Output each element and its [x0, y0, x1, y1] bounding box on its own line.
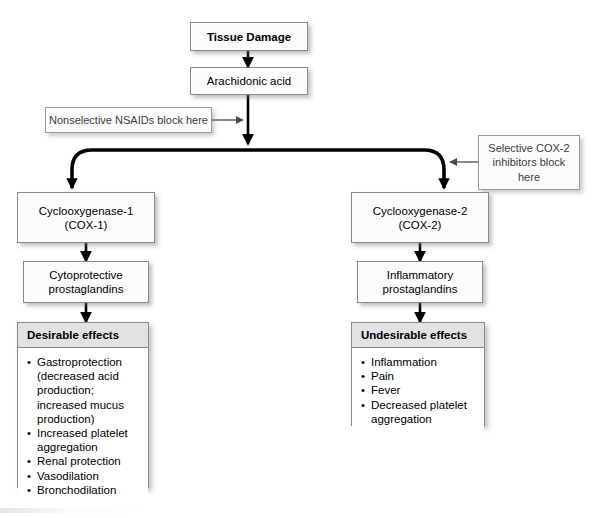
node-cytoprotective-line2: prostaglandins — [49, 282, 124, 296]
list-item-text: Vasodilation — [37, 470, 99, 482]
list-item-text: Increased platelet — [37, 427, 128, 439]
list-item-subline: (decreased acid — [37, 369, 142, 383]
node-cytoprotective-prostaglandins: Cytoprotective prostaglandins — [23, 261, 149, 303]
panel-desirable-effects-header: Desirable effects — [18, 323, 148, 348]
list-item-subline: production; — [37, 383, 142, 397]
list-item-subline: increased mucus — [37, 398, 142, 412]
node-arachidonic-acid: Arachidonic acid — [190, 67, 308, 95]
edge-fork-right — [248, 150, 444, 188]
panel-undesirable-effects-body: InflammationPainFeverDecreased plateleta… — [352, 348, 484, 434]
list-item: Renal protection — [27, 454, 142, 468]
callout-selective-cox2-line2: inhibitors block — [493, 155, 566, 170]
node-cox2-line1: Cyclooxygenase-2 — [373, 204, 468, 218]
flowchart-canvas: Tissue Damage Arachidonic acid Nonselect… — [0, 0, 607, 518]
panel-undesirable-effects-header: Undesirable effects — [352, 323, 484, 348]
node-cox1-line1: Cyclooxygenase-1 — [39, 204, 134, 218]
scan-edge-artifact — [0, 508, 150, 513]
list-item: Pain — [361, 369, 478, 383]
list-item-subline: aggregation — [371, 412, 478, 426]
list-item-text: Pain — [371, 370, 394, 382]
edge-fork-left — [72, 150, 248, 188]
list-item-text: Inflammation — [371, 356, 437, 368]
list-item-text: Decreased platelet — [371, 399, 467, 411]
list-item-text: Renal protection — [37, 455, 121, 467]
list-item: Gastroprotection(decreased acidproductio… — [27, 355, 142, 426]
node-tissue-damage-label: Tissue Damage — [207, 30, 291, 44]
list-item: Vasodilation — [27, 469, 142, 483]
list-item-text: Bronchodilation — [37, 484, 116, 496]
list-item: Fever — [361, 383, 478, 397]
node-cox2-line2: (COX-2) — [399, 218, 442, 232]
callout-nonselective-nsaids-line1: Nonselective NSAIDs block here — [49, 113, 208, 128]
callout-selective-cox2-line3: here — [518, 170, 540, 185]
list-item-subline: production) — [37, 412, 142, 426]
node-cox2: Cyclooxygenase-2 (COX-2) — [351, 192, 489, 243]
desirable-effects-list: Gastroprotection(decreased acidproductio… — [27, 355, 142, 497]
node-inflammatory-prostaglandins: Inflammatory prostaglandins — [357, 261, 483, 303]
undesirable-effects-list: InflammationPainFeverDecreased plateleta… — [361, 355, 478, 426]
callout-selective-cox2-line1: Selective COX-2 — [488, 141, 569, 156]
node-tissue-damage: Tissue Damage — [190, 22, 308, 51]
list-item-text: Fever — [371, 384, 400, 396]
list-item-subline: aggregation — [37, 440, 142, 454]
panel-undesirable-effects: Undesirable effects InflammationPainFeve… — [351, 322, 485, 426]
list-item: Increased plateletaggregation — [27, 426, 142, 454]
callout-selective-cox2: Selective COX-2 inhibitors block here — [478, 135, 580, 190]
list-item: Inflammation — [361, 355, 478, 369]
panel-desirable-effects: Desirable effects Gastroprotection(decre… — [17, 322, 149, 488]
callout-nonselective-nsaids: Nonselective NSAIDs block here — [45, 107, 212, 133]
node-cytoprotective-line1: Cytoprotective — [49, 268, 123, 282]
list-item: Decreased plateletaggregation — [361, 398, 478, 426]
node-inflammatory-line1: Inflammatory — [387, 268, 453, 282]
node-cox1: Cyclooxygenase-1 (COX-1) — [17, 192, 155, 243]
node-inflammatory-line2: prostaglandins — [383, 282, 458, 296]
list-item: Bronchodilation — [27, 483, 142, 497]
node-arachidonic-acid-label: Arachidonic acid — [207, 74, 291, 88]
list-item-text: Gastroprotection — [37, 356, 122, 368]
node-cox1-line2: (COX-1) — [65, 218, 108, 232]
panel-desirable-effects-body: Gastroprotection(decreased acidproductio… — [18, 348, 148, 505]
